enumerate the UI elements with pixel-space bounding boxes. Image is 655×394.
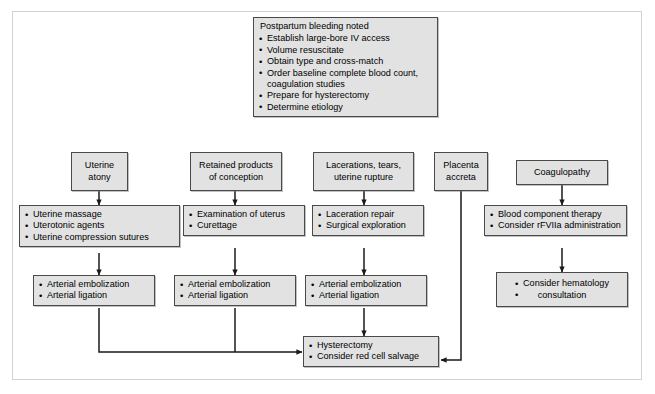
node-coagulopathy-second-line[interactable]: Consider hematology consultation <box>496 272 628 307</box>
node-coagulopathy[interactable]: Coagulopathy <box>516 160 608 185</box>
list-item: Arterial embolization <box>311 279 421 290</box>
list-item: Hysterectomy <box>309 340 433 351</box>
node-hysterectomy[interactable]: Hysterectomy Consider red cell salvage <box>303 336 439 367</box>
list-item: Order baseline complete blood count, coa… <box>259 68 432 91</box>
node-label-line2: uterine rupture <box>334 172 393 182</box>
list-item: Laceration repair <box>318 209 418 220</box>
list-item: Consider rFVIIa administration <box>490 220 621 231</box>
node-label-line1: Placenta <box>443 160 478 170</box>
node-initial-management[interactable]: Postpartum bleeding noted Establish larg… <box>253 17 438 117</box>
node-laceration-second-line[interactable]: Arterial embolization Arterial ligation <box>305 275 427 306</box>
atony-first-line-list: Uterine massage Uterotonic agents Uterin… <box>25 209 174 243</box>
node-label-line1: Coagulopathy <box>534 167 590 177</box>
node-lacerations-tears[interactable]: Lacerations, tears, uterine rupture <box>313 152 414 191</box>
list-item: Consider hematology <box>515 278 609 289</box>
node-label-line2: accreta <box>446 172 476 182</box>
coagulopathy-first-line-list: Blood component therapy Consider rFVIIa … <box>490 209 621 232</box>
node-retained-second-line[interactable]: Arterial embolization Arterial ligation <box>174 275 296 306</box>
node-label-line1: Retained products <box>199 160 273 170</box>
list-item: Establish large-bore IV access <box>259 33 432 44</box>
node-label-line1: Uterine <box>85 160 114 170</box>
hysterectomy-list: Hysterectomy Consider red cell salvage <box>309 340 433 363</box>
laceration-second-line-list: Arterial embolization Arterial ligation <box>311 279 421 302</box>
list-item: Blood component therapy <box>490 209 621 220</box>
node-retained-first-line[interactable]: Examination of uterus Curettage <box>183 205 305 236</box>
laceration-first-line-list: Laceration repair Surgical exploration <box>318 209 418 232</box>
list-item: Arterial embolization <box>180 279 290 290</box>
node-retained-products[interactable]: Retained products of conception <box>190 152 282 191</box>
list-item: Uterine massage <box>25 209 174 220</box>
list-item: Surgical exploration <box>318 220 418 231</box>
list-item: Arterial ligation <box>180 290 290 301</box>
node-placenta-accreta[interactable]: Placenta accreta <box>434 152 488 191</box>
list-item: Uterotonic agents <box>25 220 174 231</box>
list-item: Determine etiology <box>259 102 432 113</box>
list-item: Uterine compression sutures <box>25 232 174 243</box>
node-coagulopathy-first-line[interactable]: Blood component therapy Consider rFVIIa … <box>484 205 627 236</box>
node-label-line2: of conception <box>209 172 263 182</box>
list-item: Prepare for hysterectomy <box>259 90 432 101</box>
list-item: Volume resuscitate <box>259 45 432 56</box>
node-atony-second-line[interactable]: Arterial embolization Arterial ligation <box>33 275 155 306</box>
list-item: Consider red cell salvage <box>309 351 433 362</box>
retained-second-line-list: Arterial embolization Arterial ligation <box>180 279 290 302</box>
list-item: Curettage <box>189 220 299 231</box>
atony-second-line-list: Arterial embolization Arterial ligation <box>39 279 149 302</box>
list-item: Arterial ligation <box>39 290 149 301</box>
initial-management-list: Establish large-bore IV access Volume re… <box>259 33 432 113</box>
flowchart-canvas: Postpartum bleeding noted Establish larg… <box>0 0 655 394</box>
node-label-line1: Lacerations, tears, <box>326 160 401 170</box>
node-laceration-first-line[interactable]: Laceration repair Surgical exploration <box>312 205 424 236</box>
list-item: Arterial embolization <box>39 279 149 290</box>
list-item: Examination of uterus <box>189 209 299 220</box>
initial-management-heading: Postpartum bleeding noted <box>260 21 432 32</box>
retained-first-line-list: Examination of uterus Curettage <box>189 209 299 232</box>
node-atony-first-line[interactable]: Uterine massage Uterotonic agents Uterin… <box>19 205 180 247</box>
node-label-line2: atony <box>88 172 110 182</box>
list-item: Obtain type and cross-match <box>259 56 432 67</box>
list-item: Arterial ligation <box>311 290 421 301</box>
coagulopathy-second-line-list: Consider hematology consultation <box>515 278 609 301</box>
list-item-continuation: consultation <box>515 290 609 301</box>
node-uterine-atony[interactable]: Uterine atony <box>71 152 128 191</box>
